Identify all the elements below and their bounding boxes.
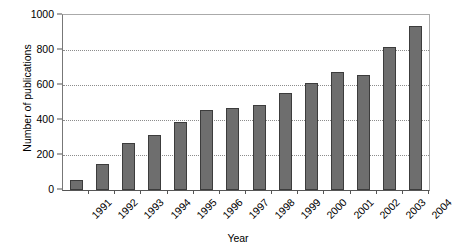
x-axis-title: Year bbox=[0, 232, 440, 244]
x-tick-label: 1999 bbox=[298, 196, 323, 221]
x-tick-mark bbox=[114, 190, 115, 194]
x-tick-mark bbox=[428, 190, 429, 194]
y-tick-mark bbox=[57, 84, 62, 85]
x-tick-mark bbox=[376, 190, 377, 194]
x-tick-mark bbox=[140, 190, 141, 194]
y-tick-mark bbox=[57, 49, 62, 50]
y-tick-mark bbox=[57, 14, 62, 15]
x-tick-label: 2004 bbox=[429, 196, 454, 221]
x-tick-mark bbox=[402, 190, 403, 194]
x-tick-label: 1995 bbox=[193, 196, 218, 221]
x-tick-label: 1996 bbox=[220, 196, 245, 221]
x-tick-mark bbox=[219, 190, 220, 194]
x-tick-mark bbox=[88, 190, 89, 194]
x-tick-mark bbox=[193, 190, 194, 194]
y-tick-mark bbox=[57, 154, 62, 155]
x-tick-label: 1993 bbox=[141, 196, 166, 221]
x-tick-label: 2001 bbox=[350, 196, 375, 221]
x-tick-mark bbox=[350, 190, 351, 194]
x-axis-title-text: Year bbox=[227, 232, 248, 244]
y-tick-mark bbox=[57, 189, 62, 190]
x-tick-mark bbox=[297, 190, 298, 194]
x-tick-label: 1992 bbox=[115, 196, 140, 221]
y-tick-mark bbox=[57, 119, 62, 120]
x-tick-label: 1994 bbox=[167, 196, 192, 221]
x-tick-label: 2000 bbox=[324, 196, 349, 221]
x-tick-label: 1998 bbox=[272, 196, 297, 221]
x-tick-mark bbox=[167, 190, 168, 194]
x-tick-mark bbox=[245, 190, 246, 194]
x-tick-label: 1997 bbox=[246, 196, 271, 221]
x-tick-mark bbox=[323, 190, 324, 194]
x-tick-label: 2003 bbox=[403, 196, 428, 221]
x-tick-label: 1991 bbox=[89, 196, 114, 221]
x-tick-label: 2002 bbox=[376, 196, 401, 221]
x-tick-mark bbox=[271, 190, 272, 194]
